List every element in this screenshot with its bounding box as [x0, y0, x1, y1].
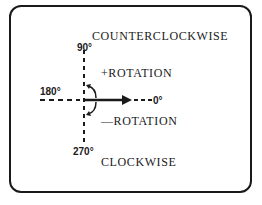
clockwise-label: CLOCKWISE [101, 155, 176, 169]
positive-rotation-label: +ROTATION [101, 66, 172, 80]
negative-rotation-label: —ROTATION [100, 114, 177, 128]
angle-90-label: 90° [77, 42, 92, 53]
angle-270-label: 270° [73, 146, 94, 157]
rotation-diagram: COUNTERCLOCKWISE 90° +ROTATION 180° 0° —… [0, 0, 262, 205]
angle-0-label: 0° [153, 95, 163, 106]
angle-180-label: 180° [40, 86, 61, 97]
counterclockwise-label: COUNTERCLOCKWISE [92, 29, 228, 43]
vector-arrowhead-icon [122, 95, 132, 105]
